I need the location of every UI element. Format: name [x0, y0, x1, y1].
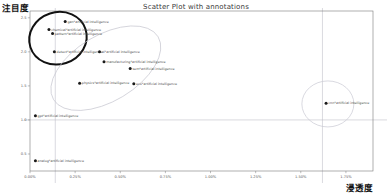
data-point-marker[interactable] — [47, 28, 50, 31]
data-points-group: gan*artificial intelligencechemical*arti… — [34, 20, 369, 163]
data-point-label: eco*artificial intelligence — [136, 82, 177, 86]
data-point[interactable]: ai*artificial intelligence — [98, 50, 140, 54]
x-tick-label: 1.25% — [250, 175, 262, 179]
data-point-marker[interactable] — [129, 67, 132, 70]
x-tick-label: 1.75% — [340, 175, 352, 179]
data-point-marker[interactable] — [103, 60, 106, 63]
scatter-plot-screenshot: 注目度 浸透度 Scatter Plot with annotations 0.… — [0, 0, 392, 194]
data-point-marker[interactable] — [64, 20, 67, 23]
data-point-label: sem*artificial intelligence — [132, 67, 174, 71]
data-point-marker[interactable] — [98, 50, 101, 53]
data-point[interactable]: detect*artificial intelligence — [53, 50, 102, 54]
data-point[interactable]: physics*artificial intelligence — [78, 81, 129, 85]
data-point-marker[interactable] — [78, 82, 81, 85]
y-tick-label: 2.0 — [21, 50, 27, 54]
data-point-label: physics*artificial intelligence — [82, 81, 129, 85]
data-point-label: gpt*artificial intelligence — [38, 114, 79, 118]
x-tick-label: 0.25% — [69, 175, 81, 179]
data-point-label: gan*artificial intelligence — [67, 20, 108, 24]
x-tick-label: 1.50% — [295, 175, 307, 179]
data-point-label: cnn*artificial intelligence — [328, 101, 369, 105]
data-point-marker[interactable] — [132, 82, 135, 85]
y-tick-label: 2.5 — [21, 16, 27, 20]
annotation-ellipse-highlight-cluster — [22, 5, 93, 72]
y-tick-label: 0.5 — [21, 152, 27, 156]
data-point-marker[interactable] — [53, 50, 56, 53]
y-tick-label: 1.0 — [21, 118, 27, 122]
data-point-label: analog*artificial intelligence — [38, 159, 84, 163]
x-tick-label: 0.75% — [160, 175, 172, 179]
data-point[interactable]: cnn*artificial intelligence — [325, 101, 370, 105]
x-tick-label: 1.00% — [205, 175, 217, 179]
data-point-marker[interactable] — [34, 114, 37, 117]
x-tick-label: 0.50% — [115, 175, 127, 179]
data-point-label: detect*artificial intelligence — [57, 50, 103, 54]
data-point-label: manufacturing*artificial intelligence — [106, 60, 165, 64]
scatter-chart-canvas: 0.00%0.25%0.50%0.75%1.00%1.25%1.50%1.75%… — [0, 0, 392, 194]
x-tick-labels-group: 0.00%0.25%0.50%0.75%1.00%1.25%1.50%1.75% — [24, 175, 352, 179]
y-tick-labels-group: 2.52.01.51.00.5 — [21, 16, 27, 156]
data-point[interactable]: sem*artificial intelligence — [129, 67, 175, 71]
data-point[interactable]: pattern*artificial intelligence — [51, 32, 102, 36]
data-point-label: pattern*artificial intelligence — [55, 32, 102, 36]
tick-marks-group — [28, 18, 346, 173]
y-tick-label: 1.5 — [21, 84, 27, 88]
data-point[interactable]: gpt*artificial intelligence — [34, 114, 78, 118]
x-tick-label: 0.00% — [24, 175, 36, 179]
data-point-marker[interactable] — [325, 102, 328, 105]
data-point[interactable]: analog*artificial intelligence — [34, 159, 84, 163]
data-point[interactable]: manufacturing*artificial intelligence — [103, 60, 166, 64]
data-point[interactable]: gan*artificial intelligence — [64, 20, 109, 24]
data-point[interactable]: eco*artificial intelligence — [132, 82, 177, 86]
data-point-label: ai*artificial intelligence — [102, 50, 140, 54]
data-point-marker[interactable] — [34, 159, 37, 162]
data-point-marker[interactable] — [51, 32, 54, 35]
